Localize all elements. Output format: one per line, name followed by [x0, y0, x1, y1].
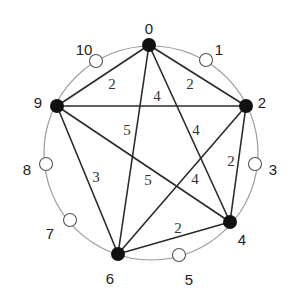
edge-weight-label: 5 — [144, 172, 152, 188]
edge-weight-label: 4 — [153, 88, 161, 104]
edge-weight-label: 2 — [227, 153, 235, 169]
node-label: 5 — [185, 271, 193, 288]
empty-node-1 — [200, 54, 213, 67]
empty-node-8 — [40, 158, 53, 171]
edge-weight-label: 3 — [92, 169, 100, 185]
edges-group — [57, 45, 246, 254]
node-label: 3 — [269, 161, 277, 178]
node-label: 2 — [258, 94, 266, 111]
node-label: 7 — [46, 225, 54, 242]
circulant-graph-diagram: 2245435422 012345678910 — [0, 0, 303, 298]
filled-node-4 — [223, 215, 237, 229]
nodes-group — [40, 38, 262, 262]
node-label: 8 — [23, 161, 31, 178]
edge-9-0 — [57, 45, 149, 106]
edge-weight-label: 2 — [186, 76, 194, 92]
edge-weight-label: 5 — [123, 122, 131, 138]
edge-9-6 — [57, 106, 118, 254]
node-label: 9 — [34, 94, 42, 111]
empty-node-5 — [173, 249, 186, 262]
filled-node-0 — [142, 38, 156, 52]
filled-node-6 — [111, 247, 125, 261]
empty-node-3 — [249, 158, 262, 171]
edge-weight-label: 4 — [192, 122, 200, 138]
edge-weight-label: 2 — [108, 76, 116, 92]
edge-weights-group: 2245435422 — [92, 76, 235, 236]
empty-node-7 — [64, 214, 77, 227]
node-label: 0 — [145, 20, 153, 37]
edge-weight-label: 2 — [174, 220, 182, 236]
node-label: 4 — [238, 231, 246, 248]
edge-weight-label: 4 — [191, 171, 199, 187]
node-label: 10 — [76, 41, 93, 58]
filled-node-2 — [239, 99, 253, 113]
node-label: 6 — [106, 270, 114, 287]
node-label: 1 — [215, 41, 223, 58]
filled-node-9 — [50, 99, 64, 113]
